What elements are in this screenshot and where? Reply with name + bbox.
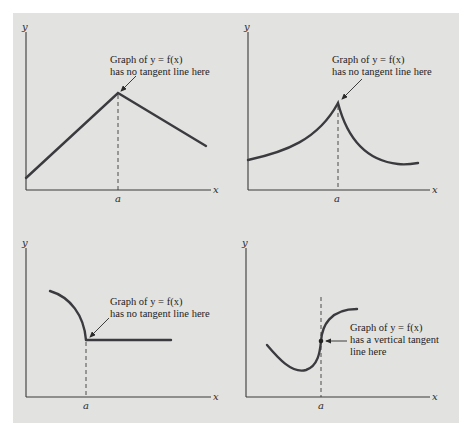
a-tick-label: a (115, 193, 121, 204)
y-axis-label: y (243, 21, 250, 32)
annotation-line-2: has no tangent line here (110, 66, 210, 77)
annotation-line-1: Graph of y = f(x) (350, 322, 423, 334)
annotation-line-2: has no tangent line here (332, 66, 432, 77)
graph-cusp (248, 103, 418, 164)
x-axis-label: x (432, 184, 438, 195)
annotation-line-1: Graph of y = f(x) (332, 54, 405, 66)
graph-arc (50, 291, 86, 340)
panel-arc-flat: y x a Graph of y = f(x) has no tangent l… (21, 237, 219, 411)
annotation-line-2: has a vertical tangent (350, 334, 439, 345)
y-axis-label: y (241, 237, 248, 248)
x-axis-label: x (213, 391, 219, 402)
annotation-arrow (90, 318, 109, 337)
x-axis-label: x (213, 184, 219, 195)
graph-corner (26, 93, 206, 178)
annotation-arrow (121, 76, 136, 91)
a-tick-label: a (83, 400, 89, 411)
y-axis-label: y (21, 21, 28, 32)
panel-cusp: y x a Graph of y = f(x) has no tangent l… (243, 21, 438, 204)
graph-s-curve (267, 309, 357, 371)
x-axis-label: x (432, 391, 438, 402)
annotation-line-3: line here (350, 346, 387, 357)
annotation-line-2: has no tangent line here (110, 308, 210, 319)
annotation-arrow (342, 79, 362, 99)
annotation-line-1: Graph of y = f(x) (110, 54, 183, 66)
panel-corner: y x a Graph of y = f(x) has no tangent l… (21, 21, 219, 204)
panel-vertical-tangent: y x a Graph of y = f(x) has a vertical t… (241, 237, 439, 411)
a-tick-label: a (334, 193, 340, 204)
tangent-line-figure: y x a Graph of y = f(x) has no tangent l… (0, 0, 473, 437)
tangent-point-dot (319, 339, 324, 344)
y-axis-label: y (21, 237, 28, 248)
annotation-line-1: Graph of y = f(x) (110, 296, 183, 308)
a-tick-label: a (318, 400, 324, 411)
